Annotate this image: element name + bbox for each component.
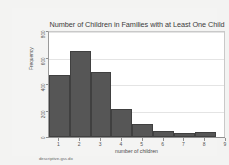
x-tick-label: 5	[137, 141, 147, 147]
y-tick-label: 400	[42, 84, 47, 92]
x-tick-label: 9	[220, 141, 229, 147]
y-axis-title: Frequency	[29, 47, 34, 70]
x-tick-label: 4	[116, 141, 126, 147]
gridline	[49, 32, 224, 33]
plot-inner	[49, 32, 224, 137]
y-tick-label: 600	[42, 57, 47, 65]
histogram-bar	[70, 51, 91, 137]
x-tick-label: 3	[95, 141, 105, 147]
y-tick-label: 0	[42, 137, 47, 140]
x-tick-label: 6	[158, 141, 168, 147]
plot-area	[48, 31, 225, 137]
x-tick-label: 1	[53, 141, 63, 147]
graph-region: Number of Children in Families with at L…	[12, 8, 217, 156]
histogram-bar	[111, 109, 132, 137]
x-tick-label: 7	[178, 141, 188, 147]
histogram-bar	[91, 72, 112, 137]
chart-screenshot: Number of Children in Families with at L…	[0, 0, 229, 165]
histogram-bar	[132, 124, 153, 137]
footnote-label: descriptive-gss.do	[39, 156, 73, 161]
histogram-bar	[49, 75, 70, 137]
y-tick-label: 800	[42, 31, 47, 39]
x-tick-label: 2	[74, 141, 84, 147]
x-axis-line	[48, 137, 225, 138]
chart-title: Number of Children in Families with at L…	[48, 20, 226, 29]
x-axis-title: number of children	[48, 148, 225, 154]
x-tick-label: 8	[199, 141, 209, 147]
y-tick-label: 200	[42, 110, 47, 118]
